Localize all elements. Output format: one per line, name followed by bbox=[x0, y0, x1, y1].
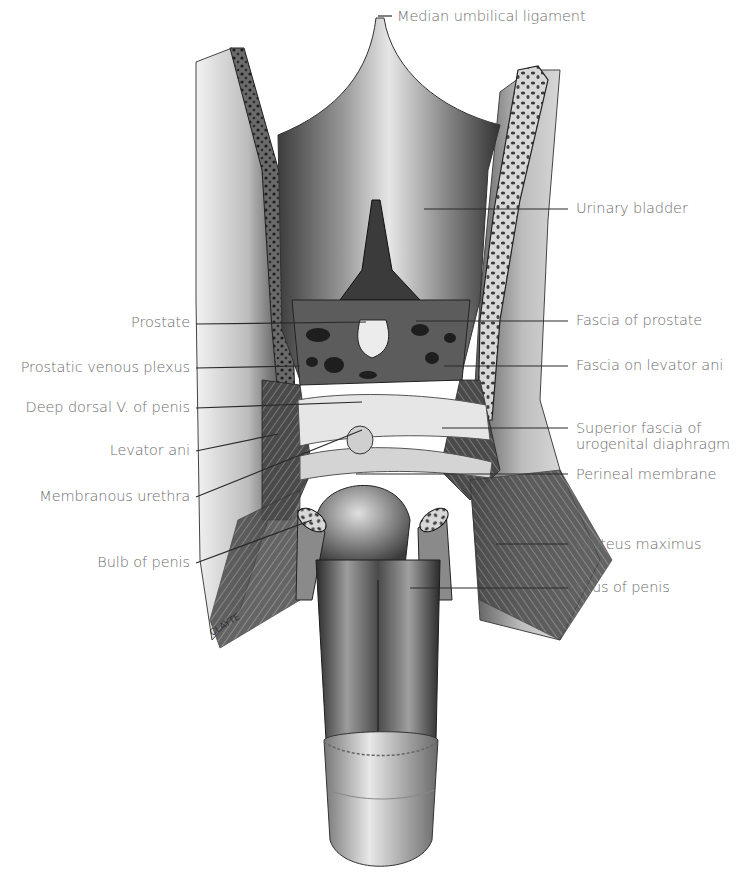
label-membranous-urethra: Membranous urethra bbox=[39, 488, 190, 504]
label-urinary-bladder: Urinary bladder bbox=[576, 200, 688, 216]
label-levator-ani: Levator ani bbox=[110, 442, 190, 458]
anatomy-figure: CLAYTE Prostate Prostatic venous plexus … bbox=[0, 0, 752, 890]
label-median-umbilical-ligament: Median umbilical ligament bbox=[397, 8, 586, 24]
label-perineal-membrane: Perineal membrane bbox=[576, 466, 716, 482]
label-gluteus-maximus: Gluteus maximus bbox=[576, 536, 701, 552]
label-prostatic-venous-plexus: Prostatic venous plexus bbox=[21, 359, 190, 375]
bulb-of-penis-shape bbox=[316, 485, 410, 565]
label-fascia-of-prostate: Fascia of prostate bbox=[576, 312, 702, 328]
label-bulb-of-penis: Bulb of penis bbox=[97, 554, 190, 570]
label-prostate: Prostate bbox=[131, 314, 190, 330]
label-crus-of-penis: Crus of penis bbox=[576, 579, 670, 595]
label-deep-dorsal-vein: Deep dorsal V. of penis bbox=[26, 399, 190, 415]
label-superior-fascia-urogenital-diaphragm: Superior fascia of urogenital diaphragm bbox=[576, 420, 730, 452]
label-fascia-on-levator-ani: Fascia on levator ani bbox=[576, 357, 723, 373]
